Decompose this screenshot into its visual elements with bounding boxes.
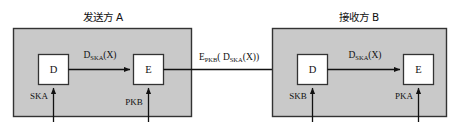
channel-label-open: ( D xyxy=(217,52,230,63)
sender-decrypt-box-label: D xyxy=(50,64,58,75)
receiver-flow-label-sub: SKA xyxy=(355,54,368,61)
channel-label: EPKB( DSKA(X)) xyxy=(199,52,259,63)
sender-key-ska-label: SKA xyxy=(30,91,49,101)
receiver-decrypt-box-label: D xyxy=(309,64,317,75)
receiver-panel-title: 接收方 B xyxy=(339,11,380,23)
sender-key-pkb-label: PKB xyxy=(125,97,143,107)
channel-label-close: (X)) xyxy=(243,52,259,63)
receiver-key-skb-label: SKB xyxy=(289,91,307,101)
sender-panel: 发送方 A D E DSKA(X) SKA PKB xyxy=(14,11,192,122)
receiver-panel: 接收方 B D E DSKA(X) SKB PKA xyxy=(273,11,447,122)
sender-flow-label-arg: (X) xyxy=(103,50,116,61)
channel-label-sub-pkb: PKB xyxy=(205,56,218,63)
receiver-encrypt-box-label: E xyxy=(415,64,421,75)
sender-encrypt-box-label: E xyxy=(145,64,151,75)
receiver-flow-label-arg: (X) xyxy=(368,50,381,61)
sender-panel-title: 发送方 A xyxy=(83,11,124,23)
receiver-key-pka-label: PKA xyxy=(395,91,414,101)
sender-flow-label-sub: SKA xyxy=(90,54,103,61)
crypto-flow-diagram: 发送方 A D E DSKA(X) SKA PKB EPKB( xyxy=(0,0,458,131)
channel-label-sub-ska: SKA xyxy=(230,56,243,63)
